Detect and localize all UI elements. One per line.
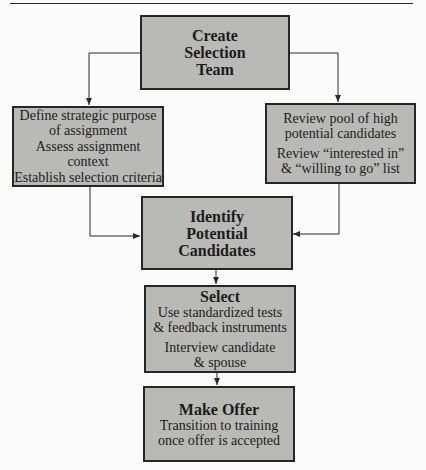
arrow-create-to-strategic (89, 53, 140, 105)
identify-candidates-title: Identify Potential Candidates (178, 208, 255, 259)
select-box: Select Use standardized tests & feedback… (144, 285, 296, 373)
arrow-pool-to-identify (293, 183, 339, 234)
arrow-strategic-to-identify (90, 186, 140, 236)
review-interested-list-text: Review “interested in” & “willing to go”… (277, 146, 405, 176)
make-offer-title: Make Offer (179, 401, 259, 418)
select-title: Select (200, 288, 240, 305)
interview-text: Interview candidate & spouse (165, 340, 276, 370)
assess-context-text: Assess assignment context (14, 139, 162, 169)
create-selection-team-title: Create Selection Team (184, 27, 245, 78)
identify-candidates-box: Identify Potential Candidates (141, 196, 293, 270)
define-strategic-purpose-text: Define strategic purpose of assignment (20, 108, 157, 138)
create-selection-team-box: Create Selection Team (140, 15, 290, 90)
establish-criteria-text: Establish selection criteria (14, 170, 162, 185)
review-pool-text: Review pool of high potential candidates (283, 111, 398, 141)
transition-training-text: Transition to training once offer is acc… (158, 418, 280, 448)
arrow-create-to-pool (290, 53, 338, 102)
review-pool-box: Review pool of high potential candidates… (265, 103, 416, 184)
standardized-tests-text: Use standardized tests & feedback instru… (153, 305, 287, 335)
strategic-purpose-box: Define strategic purpose of assignment A… (12, 106, 164, 187)
make-offer-box: Make Offer Transition to training once o… (143, 386, 295, 462)
